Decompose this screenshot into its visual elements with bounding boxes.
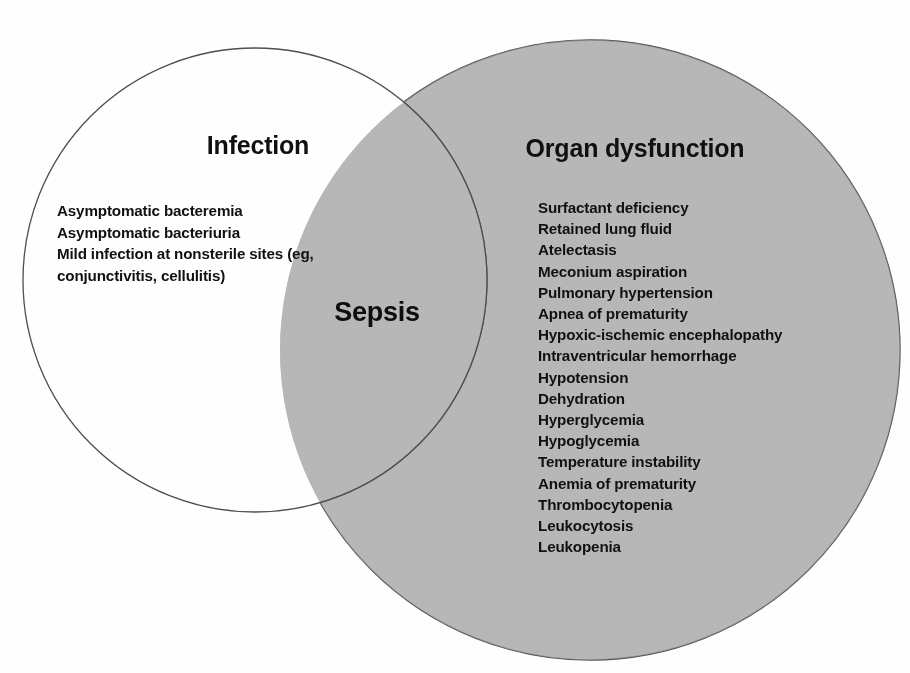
list-item: Apnea of prematurity <box>538 303 898 324</box>
list-item: Thrombocytopenia <box>538 494 898 515</box>
sepsis-label: Sepsis <box>302 297 452 328</box>
list-item: Asymptomatic bacteremia <box>57 200 357 222</box>
list-item: Mild infection at nonsterile sites (eg, … <box>57 243 357 286</box>
infection-title: Infection <box>128 131 388 160</box>
organ-dysfunction-title-container: Organ dysfunction <box>470 134 800 163</box>
list-item: Atelectasis <box>538 239 898 260</box>
list-item: Hypoglycemia <box>538 430 898 451</box>
list-item: Intraventricular hemorrhage <box>538 345 898 366</box>
list-item: Pulmonary hypertension <box>538 282 898 303</box>
infection-list-container: Asymptomatic bacteremia Asymptomatic bac… <box>57 200 357 286</box>
list-item: Leukocytosis <box>538 515 898 536</box>
organ-dysfunction-item-list: Surfactant deficiency Retained lung flui… <box>538 197 898 557</box>
list-item: Leukopenia <box>538 536 898 557</box>
venn-diagram: Infection Asymptomatic bacteremia Asympt… <box>0 0 910 673</box>
infection-item-list: Asymptomatic bacteremia Asymptomatic bac… <box>57 200 357 286</box>
list-item: Surfactant deficiency <box>538 197 898 218</box>
list-item: Retained lung fluid <box>538 218 898 239</box>
list-item: Meconium aspiration <box>538 261 898 282</box>
infection-title-container: Infection <box>128 131 388 160</box>
list-item: Temperature instability <box>538 451 898 472</box>
list-item: Hyperglycemia <box>538 409 898 430</box>
list-item: Hypoxic-ischemic encephalopathy <box>538 324 898 345</box>
list-item: Dehydration <box>538 388 898 409</box>
sepsis-label-container: Sepsis <box>302 297 452 328</box>
organ-dysfunction-title: Organ dysfunction <box>470 134 800 163</box>
list-item: Hypotension <box>538 367 898 388</box>
list-item: Anemia of prematurity <box>538 473 898 494</box>
organ-dysfunction-list-container: Surfactant deficiency Retained lung flui… <box>538 197 898 557</box>
list-item: Asymptomatic bacteriuria <box>57 222 357 244</box>
